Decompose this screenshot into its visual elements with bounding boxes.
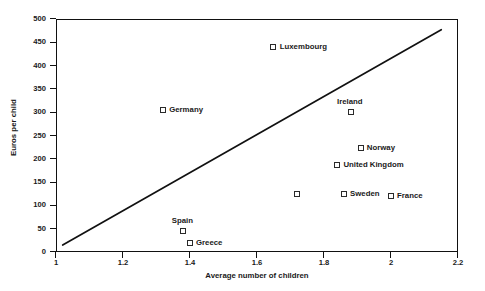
y-axis-tick-mark — [50, 228, 56, 229]
data-point-label: Greece — [196, 239, 222, 247]
data-point-marker[interactable] — [358, 145, 364, 151]
y-axis-tick-mark — [50, 18, 56, 19]
x-axis-tick-label: 1.4 — [170, 259, 210, 267]
y-axis-tick-mark — [50, 88, 56, 89]
x-axis-title: Average number of children — [56, 271, 458, 280]
data-point-marker[interactable] — [341, 191, 347, 197]
x-axis-tick-label: 2 — [371, 259, 411, 267]
y-axis-tick-mark — [50, 42, 56, 43]
data-point-label: Luxembourg — [280, 43, 327, 51]
y-axis-tick-label: 100 — [6, 201, 46, 209]
data-point-label: Germany — [169, 106, 203, 114]
y-axis-tick-label: 50 — [6, 225, 46, 233]
y-axis-tick-mark — [50, 112, 56, 113]
x-axis-tick-label: 1.2 — [103, 259, 143, 267]
y-axis-tick-mark — [50, 135, 56, 136]
x-axis-tick-label: 1.8 — [304, 259, 344, 267]
data-point-marker[interactable] — [388, 193, 394, 199]
y-axis-tick-label: 0 — [6, 248, 46, 256]
data-point-marker[interactable] — [180, 228, 186, 234]
data-point-marker[interactable] — [160, 107, 166, 113]
data-point-label: Norway — [367, 144, 395, 152]
data-point-marker[interactable] — [294, 191, 300, 197]
x-axis-tick-label: 1 — [36, 259, 76, 267]
data-point-label: Ireland — [337, 98, 363, 106]
plot-area — [56, 19, 458, 252]
data-point-marker[interactable] — [334, 162, 340, 168]
y-axis-tick-label: 500 — [6, 15, 46, 23]
data-point-label: United Kingdom — [343, 161, 403, 169]
data-point-marker[interactable] — [348, 109, 354, 115]
y-axis-tick-mark — [50, 182, 56, 183]
y-axis-tick-mark — [50, 158, 56, 159]
x-axis-tick-label: 1.6 — [237, 259, 277, 267]
data-point-marker[interactable] — [187, 240, 193, 246]
y-axis-tick-mark — [50, 65, 56, 66]
data-point-label: Spain — [172, 217, 193, 225]
y-axis-title: Euros per child — [9, 68, 18, 188]
y-axis-tick-mark — [50, 205, 56, 206]
data-point-label: Sweden — [350, 190, 379, 198]
data-point-marker[interactable] — [270, 44, 276, 50]
data-point-label: France — [397, 192, 423, 200]
scatter-chart: 05010015020025030035040045050011.21.41.6… — [0, 0, 485, 291]
y-axis-tick-label: 450 — [6, 38, 46, 46]
x-axis-tick-label: 2.2 — [438, 259, 478, 267]
